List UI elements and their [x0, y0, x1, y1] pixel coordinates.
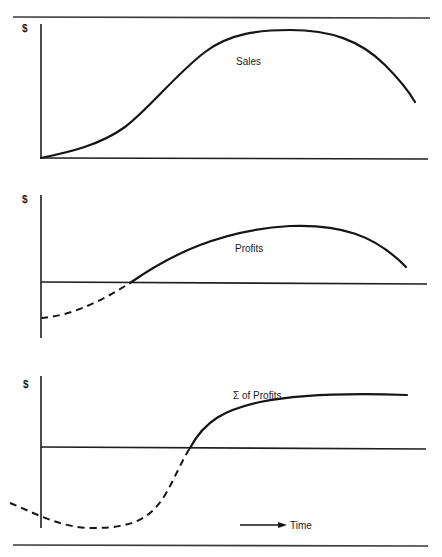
sales-x-axis	[41, 158, 428, 159]
profits-curve	[130, 226, 406, 283]
sales-curve-label: Sales	[236, 56, 261, 67]
sales-panel: $ Sales	[22, 23, 428, 159]
sales-curve	[41, 30, 415, 158]
bottom-rule	[13, 545, 428, 546]
profits-curve-label: Profits	[235, 243, 263, 254]
product-life-cycle-figure: $ Sales $ Profits $ Σ of Profits Time	[0, 0, 442, 557]
cumulative-y-axis-label: $	[23, 379, 29, 390]
cumulative-curve-label: Σ of Profits	[233, 390, 281, 401]
cumulative-profits-curve	[190, 394, 407, 448]
profits-loss-curve	[41, 283, 130, 318]
profits-zero-line	[41, 282, 427, 284]
cumulative-negative-curve	[10, 448, 190, 528]
sales-y-axis-label: $	[22, 23, 28, 34]
profits-panel: $ Profits	[22, 194, 427, 338]
arrow-head-icon	[278, 522, 287, 528]
top-rule	[13, 17, 430, 18]
time-axis-label: Time	[290, 520, 312, 531]
cumulative-profits-panel: $ Σ of Profits Time	[10, 376, 426, 531]
cumulative-zero-line	[41, 447, 426, 449]
profits-y-axis-label: $	[22, 194, 28, 205]
time-arrow: Time	[240, 520, 312, 531]
